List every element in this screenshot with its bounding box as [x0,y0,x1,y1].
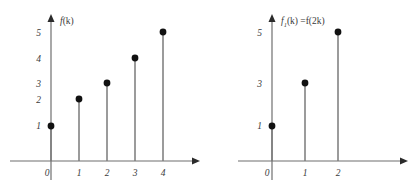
x-tick-label: 3 [132,168,138,178]
x-tick-label: 1 [303,168,308,178]
y-tick-label: 1 [257,121,262,131]
y-axis-caption-left: f(k) [60,16,74,27]
data-point [269,123,276,130]
y-axis-arrow-icon [48,14,55,22]
data-point [132,55,139,62]
y-axis-arrow-icon [269,14,276,22]
chart-panel-right: 0 1 2 1 3 5 f1(k) =f(2k) [210,0,419,189]
y-tick-label: 4 [36,54,41,64]
x-tick-labels-left: 0 1 2 3 4 [45,168,166,178]
y-tick-label: 1 [36,121,41,131]
x-tick-label: 2 [105,168,110,178]
y-tick-label: 3 [35,79,41,89]
x-tick-label: 0 [45,168,50,178]
y-tick-label: 3 [256,79,262,89]
data-point [160,29,167,36]
caption-argument: (k) [63,16,74,27]
data-point [302,80,309,87]
y-tick-label: 2 [36,95,41,105]
stem-plot-f1k: 0 1 2 1 3 5 f1(k) =f(2k) [210,0,419,189]
y-axis-caption-right: f1(k) =f(2k) [281,16,325,28]
x-tick-label: 4 [161,168,166,178]
y-tick-labels-right: 1 3 5 [256,28,262,131]
y-tick-label: 5 [257,28,262,38]
stems-right [269,29,342,161]
x-tick-label: 1 [77,168,82,178]
x-tick-label: 2 [336,168,341,178]
data-point [48,123,55,130]
x-tick-label: 0 [265,168,270,178]
data-point [335,29,342,36]
axes-right [238,14,408,180]
chart-panel-left: 0 1 2 3 4 1 2 3 4 5 f(k) [0,0,210,189]
x-axis-arrow-icon [400,158,408,165]
x-axis-arrow-icon [192,158,200,165]
data-point [76,96,83,103]
caption-argument: (k) =f(2k) [287,16,325,27]
y-tick-labels-left: 1 2 3 4 5 [35,28,41,131]
data-point [104,80,111,87]
figure-root: 0 1 2 3 4 1 2 3 4 5 f(k) [0,0,419,189]
stem-plot-fk: 0 1 2 3 4 1 2 3 4 5 f(k) [0,0,210,189]
y-tick-label: 5 [36,28,41,38]
stems-left [48,29,167,161]
x-tick-labels-right: 0 1 2 [265,168,341,178]
